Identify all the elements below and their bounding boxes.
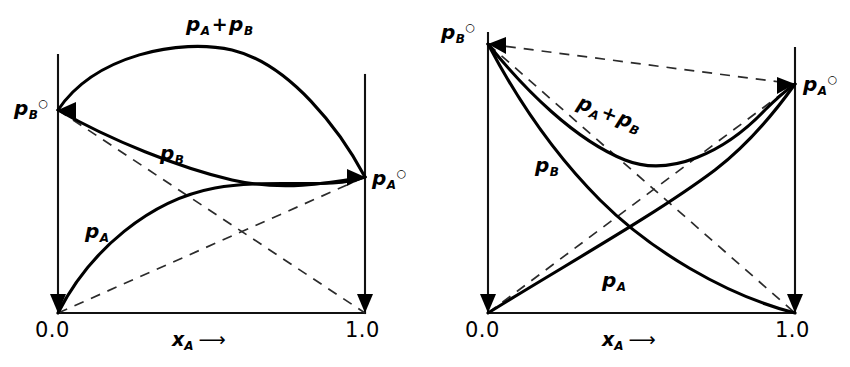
x-axis-arrow-icon: ⟶ [199, 328, 226, 350]
panel-right-plot [425, 0, 850, 367]
label-pA-curve: pA [85, 221, 109, 244]
ideal-line-pB [488, 44, 795, 313]
x-tick-left: 0.0 [465, 320, 500, 341]
vapour-pressure-figure: pB○ pA○ pA+pB pB pA 0.0 1.0 xA⟶ [0, 0, 850, 367]
panel-positive-deviation: pB○ pA○ pA+pB pB pA 0.0 1.0 xA⟶ [0, 0, 425, 367]
ideal-line-total [488, 44, 795, 84]
label-total-pressure: pA+pB [186, 14, 253, 37]
ideal-line-pB [58, 110, 365, 313]
label-pB-standard: pB○ [14, 98, 48, 121]
x-axis-label: xA⟶ [172, 330, 226, 352]
label-pB-curve: pB [160, 143, 184, 166]
label-pA-curve: pA [602, 270, 626, 293]
panel-negative-deviation: pB○ pA○ pA+pB pB pA 0.0 1.0 xA⟶ [425, 0, 850, 367]
curve-pB [58, 110, 365, 186]
x-tick-right: 1.0 [345, 320, 380, 341]
label-pA-standard: pA○ [803, 74, 837, 97]
label-pA-standard: pA○ [372, 168, 406, 191]
x-axis-label: xA⟶ [602, 330, 656, 352]
curve-total-pressure [58, 46, 365, 177]
label-pB-standard: pB○ [441, 22, 475, 45]
x-tick-left: 0.0 [35, 320, 70, 341]
x-tick-right: 1.0 [775, 320, 810, 341]
panel-left-plot [0, 0, 425, 367]
x-axis-arrow-icon: ⟶ [629, 328, 656, 350]
ideal-line-pA [58, 177, 365, 313]
label-pB-curve: pB [535, 155, 559, 178]
curve-total-pressure [488, 44, 795, 166]
